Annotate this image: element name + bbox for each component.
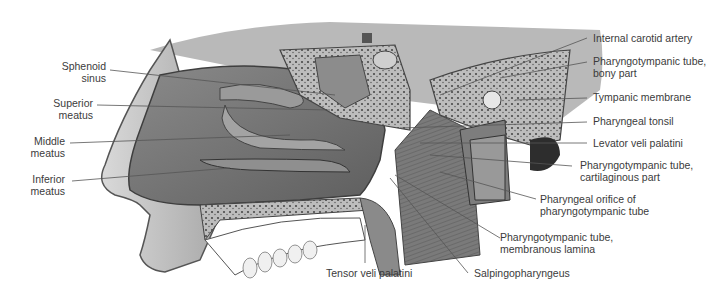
soft-palate [360, 198, 400, 275]
label-pharyngotympanic-tube-cartilaginous: Pharyngotympanic tube, cartilaginous par… [580, 159, 693, 183]
label-sphenoid-sinus: Sphenoid sinus [62, 60, 106, 84]
label-middle-meatus: Middle meatus [31, 135, 65, 159]
sella [373, 51, 397, 69]
label-pharyngeal-tonsil: Pharyngeal tonsil [593, 115, 674, 127]
label-salpingopharyngeus: Salpingopharyngeus [474, 267, 570, 279]
label-tympanic-membrane: Tympanic membrane [593, 91, 691, 103]
label-levator-veli-palatini: Levator veli palatini [593, 137, 683, 149]
label-pharyngotympanic-tube-bony: Pharyngotympanic tube, bony part [593, 55, 706, 79]
label-inferior-meatus: Inferior meatus [31, 173, 65, 197]
label-superior-meatus: Superior meatus [53, 97, 93, 121]
label-pharyngeal-orifice: Pharyngeal orifice of pharyngotympanic t… [540, 193, 649, 217]
anatomy-figure: Sphenoid sinus Superior meatus Middle me… [0, 0, 728, 293]
label-internal-carotid-artery: Internal carotid artery [593, 32, 692, 44]
ear-lobe [530, 137, 560, 171]
label-tensor-veli-palatini: Tensor veli palatini [326, 267, 412, 279]
pharyngotympanic-tube-body [470, 135, 505, 200]
pituitary-stalk [362, 33, 372, 43]
label-pharyngotympanic-tube-membranous: Pharyngotympanic tube, membranous lamina [500, 231, 613, 255]
tympanic-cavity [483, 91, 501, 109]
